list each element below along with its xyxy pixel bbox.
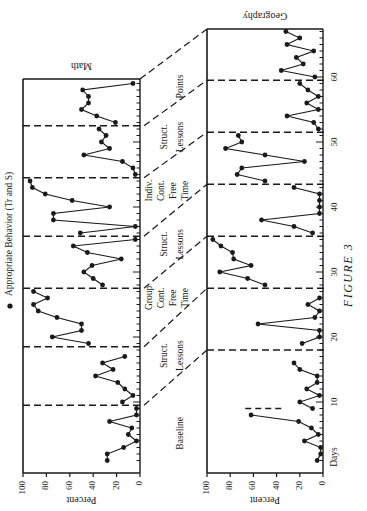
data-point [312,75,317,80]
data-point [309,426,314,431]
phase-label: Free [168,289,178,306]
data-line [251,415,321,461]
data-point [107,419,112,424]
data-point [292,361,297,366]
phase-connector-lines [140,29,207,405]
data-point [91,276,96,281]
data-point [300,341,305,346]
data-point [80,88,85,93]
data-point [315,380,320,385]
phase-labels: BaselineStruct.LessonsGroupCont.FreeTime… [144,74,190,449]
phase-label: Struct. [159,343,169,368]
percent-tick-label: 80 [224,481,234,491]
data-point [131,393,136,398]
data-point [279,68,284,73]
data-point [239,166,244,171]
data-point [50,335,55,340]
data-point [51,218,56,223]
percent-tick-label: 40 [271,481,281,491]
data-point [316,107,321,112]
data-point [306,88,311,93]
data-point [283,29,288,34]
data-point [316,94,321,99]
day-tick-label: 50 [329,137,339,147]
data-point [43,192,48,197]
data-point [297,367,302,372]
day-tick-label: 20 [329,332,339,342]
data-point [318,452,323,457]
data-point [316,432,321,437]
data-point [120,400,125,405]
data-point [296,419,301,424]
phase-label: Struct. [159,124,169,149]
data-point [315,374,320,379]
data-point [297,400,302,405]
data-point [285,114,290,119]
percent-tick-label: 100 [201,481,211,495]
data-point [297,81,302,86]
data-point [317,393,322,398]
data-point [223,146,228,151]
percent-tick-label: 100 [17,481,27,495]
data-point [104,133,109,138]
data-point [263,153,268,158]
data-point [317,192,322,197]
data-point [129,426,134,431]
percent-tick-label: 80 [40,481,50,491]
figure-caption: FIGURE 3 [341,243,355,308]
data-point [317,211,322,216]
data-point [133,172,138,177]
data-point [312,315,317,320]
data-point [85,250,90,255]
data-point [217,270,222,275]
data-point [81,153,86,158]
data-point [36,309,41,314]
data-point [111,367,116,372]
day-tick-label: 60 [329,72,339,82]
phase-connector [140,29,207,79]
data-point [122,387,127,392]
data-point [245,276,250,281]
data-point [302,439,307,444]
data-point [81,270,86,275]
data-point [302,159,307,164]
data-point [55,315,60,320]
data-point [31,302,36,307]
data-point [133,224,138,229]
data-point [122,354,127,359]
data-point [30,185,35,190]
data-line [30,181,135,233]
data-point [79,328,84,333]
data-point [219,244,224,249]
data-line [258,298,319,344]
phase-label: Free [168,182,178,199]
data-point [318,445,323,450]
phase-label: Indiv. [144,180,154,202]
percent-tick-label: 60 [64,481,74,491]
data-line [84,129,135,175]
days-axis: 102030405060Days [329,72,339,467]
percent-axis-title: Percent [250,495,280,506]
data-point [235,172,240,177]
data-point [249,413,254,418]
data-line [262,188,320,234]
data-point [99,140,104,145]
data-point [28,179,33,184]
phase-label: Cont. [156,287,166,308]
data-point [86,94,91,99]
phase-label: Baseline [175,417,185,450]
data-point [230,250,235,255]
data-point [256,322,261,327]
data-point [79,322,84,327]
data-point [249,263,254,268]
data-point [131,166,136,171]
phase-label: Group [144,285,154,310]
data-point [94,114,99,119]
data-point [134,406,139,411]
data-point [317,205,322,210]
data-point [310,231,315,236]
data-point [121,445,126,450]
figure-3-chart: Appropriate Behavior (Tr and S) 02040608… [0,0,367,511]
data-point [71,244,76,249]
data-point [115,380,120,385]
